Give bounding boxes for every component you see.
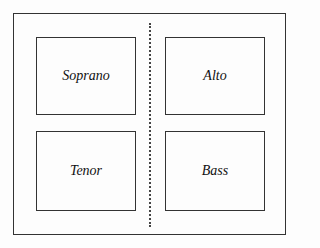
box-label: Tenor bbox=[70, 163, 102, 179]
box-tenor: Tenor bbox=[36, 131, 136, 211]
center-dotted-divider bbox=[149, 23, 151, 227]
box-label: Bass bbox=[202, 163, 228, 179]
box-soprano: Soprano bbox=[36, 37, 136, 115]
box-alto: Alto bbox=[165, 37, 265, 115]
box-label: Soprano bbox=[62, 68, 109, 84]
box-label: Alto bbox=[203, 68, 226, 84]
box-bass: Bass bbox=[165, 131, 265, 211]
